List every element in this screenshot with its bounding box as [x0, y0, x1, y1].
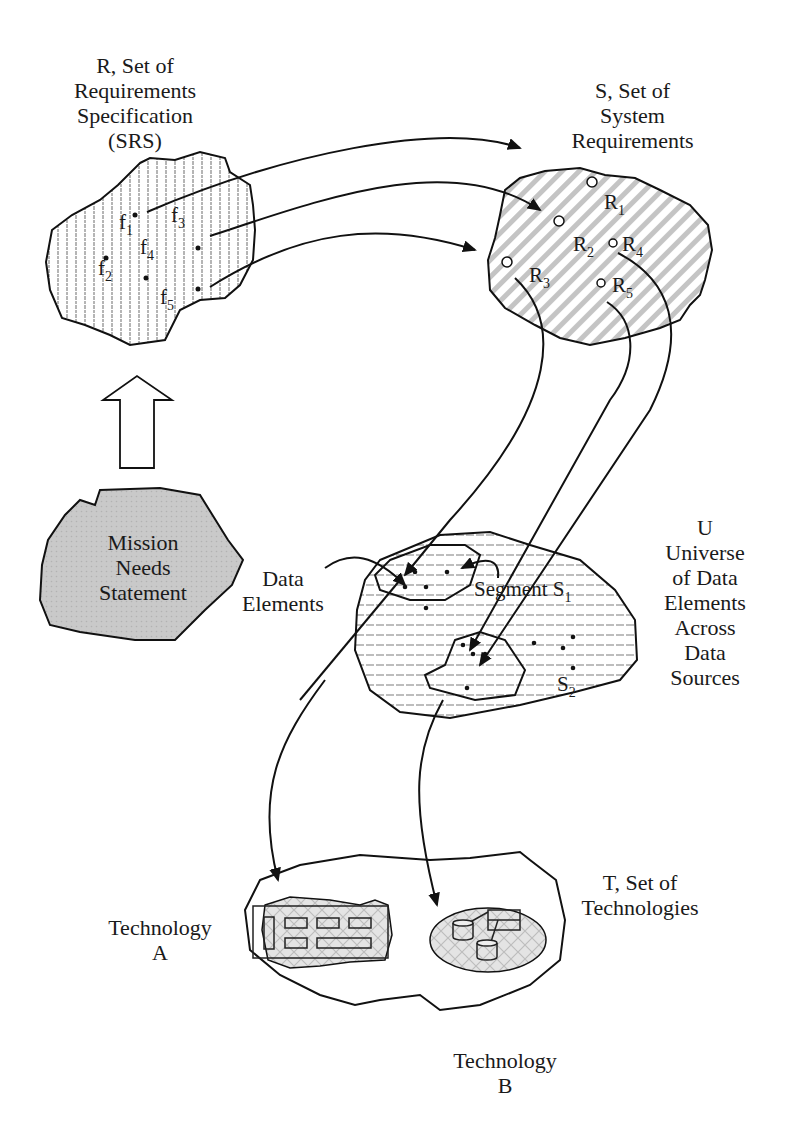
data-elements-label: Data Elements	[228, 566, 338, 616]
f5-label: f5	[160, 285, 174, 310]
tech-a-label: Technology A	[95, 915, 225, 965]
mission-needs-label: Mission Needs Statement	[68, 530, 218, 605]
system-requirements-blob	[488, 168, 712, 345]
segment-s1-label: Segment S1	[474, 577, 571, 602]
f4-label: f4	[140, 235, 154, 260]
universe-blob	[355, 532, 637, 718]
technologies-title: T, Set of Technologies	[570, 870, 710, 920]
f3-label: f3	[171, 203, 185, 228]
diagram-canvas: R, Set of Requirements Specification (SR…	[0, 0, 789, 1126]
tech-b-label: Technology B	[440, 1048, 570, 1098]
r1-label: R1	[604, 190, 625, 215]
f2-label: f2	[98, 256, 112, 281]
system-requirements-title: S, Set of System Requirements	[535, 78, 730, 153]
hollow-up-arrow	[103, 376, 172, 468]
r4-label: R4	[622, 232, 643, 257]
srs-title: R, Set of Requirements Specification (SR…	[55, 53, 215, 153]
universe-title: U Universe of Data Elements Across Data …	[640, 515, 770, 690]
r3-label: R3	[529, 263, 550, 288]
r2-label: R2	[573, 232, 594, 257]
segment-s2-label: S2	[557, 672, 576, 697]
f1-label: f1	[119, 210, 133, 235]
r5-label: R5	[612, 273, 633, 298]
